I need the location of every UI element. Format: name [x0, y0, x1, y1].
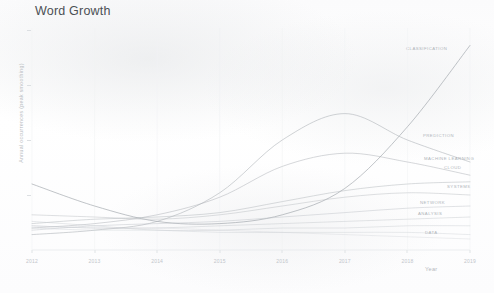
- series-line: [32, 221, 470, 230]
- series-lines-group: [32, 45, 470, 239]
- chart-canvas: Word Growth Annual occurrences (peak smo…: [0, 0, 494, 293]
- series-line: [32, 193, 470, 219]
- series-line: [32, 206, 470, 230]
- plot-area: [0, 0, 494, 293]
- series-line: [32, 45, 470, 224]
- series-line: [32, 114, 470, 235]
